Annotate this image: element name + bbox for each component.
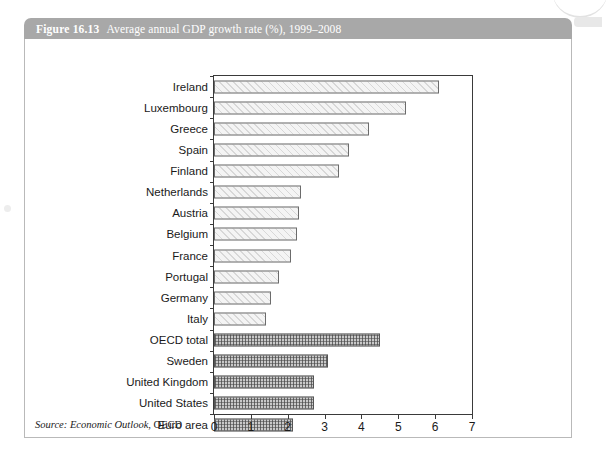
bar-oecd-total <box>214 334 380 347</box>
x-axis-tick-label: 2 <box>284 420 291 434</box>
bar-germany <box>214 291 271 304</box>
y-axis-tick <box>210 97 214 98</box>
figure-panel: IrelandLuxembourgGreeceSpainFinlandNethe… <box>24 39 572 438</box>
y-axis-tick <box>210 308 214 309</box>
y-axis-tick <box>210 224 214 225</box>
category-label: France <box>172 250 208 262</box>
y-axis-tick <box>210 203 214 204</box>
x-axis-tick <box>361 414 362 419</box>
figure-container: Figure 16.13 Average annual GDP growth r… <box>24 18 572 438</box>
page-left-speck <box>4 205 11 212</box>
x-axis-tick <box>251 414 252 419</box>
bar-row: Italy <box>214 308 472 329</box>
x-axis-tick-label: 4 <box>358 420 365 434</box>
figure-title: Average annual GDP growth rate (%), 1999… <box>107 23 342 35</box>
bar-row: Belgium <box>214 224 472 245</box>
bar-belgium <box>214 228 297 241</box>
y-axis-tick <box>210 118 214 119</box>
x-axis-tick-label: 0 <box>211 420 218 434</box>
bar-chart-plot: IrelandLuxembourgGreeceSpainFinlandNethe… <box>213 75 473 415</box>
bar-row: Greece <box>214 118 472 139</box>
bar-spain <box>214 143 349 156</box>
bar-row: Luxembourg <box>214 97 472 118</box>
source-publication: Economic Outlook <box>70 419 148 430</box>
y-axis-tick <box>210 161 214 162</box>
bar-united-kingdom <box>214 376 314 389</box>
category-label: Germany <box>161 292 208 304</box>
source-prefix: Source: <box>35 419 67 430</box>
source-organization: , OECD <box>148 419 182 430</box>
bar-italy <box>214 312 266 325</box>
x-axis-tick <box>325 414 326 419</box>
y-axis-tick <box>210 266 214 267</box>
bar-finland <box>214 165 339 178</box>
category-label: Belgium <box>166 228 208 240</box>
y-axis-tick <box>210 76 214 77</box>
page-corner-smudge <box>574 17 602 27</box>
category-label: United Kingdom <box>126 376 208 388</box>
bar-netherlands <box>214 186 301 199</box>
x-axis-tick-label: 7 <box>469 420 476 434</box>
bar-sweden <box>214 355 328 368</box>
bar-row: Germany <box>214 287 472 308</box>
x-axis: 01234567 <box>214 414 472 436</box>
bar-luxembourg <box>214 101 406 114</box>
y-axis-tick <box>210 182 214 183</box>
y-axis-tick <box>210 351 214 352</box>
page-corner-arc <box>552 0 608 18</box>
source-note: Source: Economic Outlook, OECD <box>35 419 182 430</box>
x-axis-tick-label: 6 <box>432 420 439 434</box>
bar-row: Spain <box>214 139 472 160</box>
bar-row: Finland <box>214 161 472 182</box>
bar-row: Ireland <box>214 76 472 97</box>
x-axis-tick <box>398 414 399 419</box>
category-label: Italy <box>187 313 208 325</box>
x-axis-tick <box>214 414 215 419</box>
bar-ireland <box>214 80 439 93</box>
bar-france <box>214 249 291 262</box>
x-axis-tick-label: 3 <box>321 420 328 434</box>
category-label: Luxembourg <box>144 102 208 114</box>
category-label: Ireland <box>173 81 208 93</box>
x-axis-tick-label: 5 <box>395 420 402 434</box>
y-axis-tick <box>210 139 214 140</box>
category-label: Netherlands <box>146 186 208 198</box>
x-axis-tick <box>435 414 436 419</box>
bar-austria <box>214 207 299 220</box>
bar-rows: IrelandLuxembourgGreeceSpainFinlandNethe… <box>214 76 472 435</box>
y-axis-tick <box>210 330 214 331</box>
x-axis-tick <box>472 414 473 419</box>
y-axis-tick <box>210 245 214 246</box>
bar-row: France <box>214 245 472 266</box>
bar-greece <box>214 122 369 135</box>
y-axis-tick <box>210 393 214 394</box>
bar-portugal <box>214 270 279 283</box>
x-axis-tick-label: 1 <box>248 420 255 434</box>
category-label: Greece <box>170 123 208 135</box>
bar-row: Sweden <box>214 351 472 372</box>
bar-row: Portugal <box>214 266 472 287</box>
category-label: Spain <box>179 144 208 156</box>
category-label: OECD total <box>150 334 208 346</box>
category-label: Austria <box>172 207 208 219</box>
category-label: Portugal <box>165 271 208 283</box>
category-label: United States <box>139 397 208 409</box>
x-axis-tick <box>288 414 289 419</box>
y-axis-tick <box>210 372 214 373</box>
bar-row: Austria <box>214 203 472 224</box>
figure-number: Figure 16.13 <box>36 23 100 35</box>
bar-row: United States <box>214 393 472 414</box>
bar-united-states <box>214 397 314 410</box>
bar-row: Netherlands <box>214 182 472 203</box>
category-label: Sweden <box>166 355 208 367</box>
y-axis-tick <box>210 287 214 288</box>
bar-row: OECD total <box>214 330 472 351</box>
category-label: Finland <box>170 165 208 177</box>
bar-row: United Kingdom <box>214 372 472 393</box>
figure-title-bar: Figure 16.13 Average annual GDP growth r… <box>24 18 572 39</box>
